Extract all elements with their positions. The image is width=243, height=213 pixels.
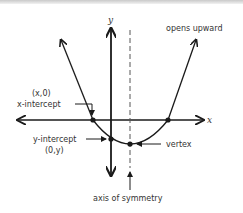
x-intercept-right-point — [165, 117, 170, 122]
opens-upward-label: opens upward — [166, 24, 223, 33]
y-intercept-label: y-intercept — [33, 135, 76, 144]
x-intercept-coord-label: (x,0) — [32, 89, 51, 98]
axis-of-symmetry-label: axis of symmetry — [93, 194, 163, 203]
parabola-diagram: x y opens upward (x,0) x-intercept y-int… — [0, 0, 243, 213]
vertex-label: vertex — [166, 140, 192, 149]
y-intercept-coord-label: (0,y) — [45, 146, 64, 155]
x-intercept-label: x-intercept — [17, 100, 61, 109]
x-axis-label: x — [207, 115, 212, 125]
y-axis-label: y — [107, 15, 114, 25]
x-intercept-left-point — [90, 117, 95, 122]
parabola-curve — [93, 120, 168, 144]
y-intercept-point — [108, 136, 113, 141]
vertex-point — [127, 141, 132, 146]
